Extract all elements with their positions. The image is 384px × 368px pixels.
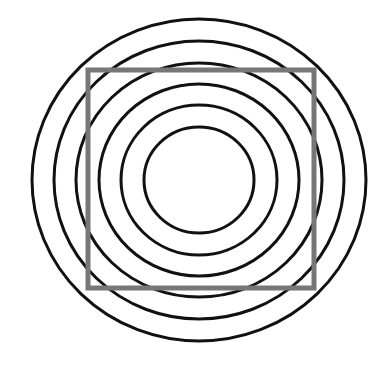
circle-ring-6 [144,127,254,233]
illusion-figure [0,0,384,368]
circle-ring-4 [99,84,299,276]
circle-ring-3 [76,63,322,297]
